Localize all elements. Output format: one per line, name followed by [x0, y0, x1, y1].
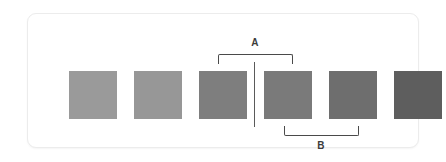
bracket-a	[218, 54, 293, 64]
bracket-b	[284, 126, 359, 136]
color-swatch-2	[134, 71, 182, 119]
diagram-card: A B	[27, 13, 419, 148]
gray-swatch-diagram: A B	[0, 0, 446, 162]
bracket-a-label: A	[235, 37, 275, 49]
color-swatch-4	[264, 71, 312, 119]
swatch-strip	[69, 71, 429, 119]
vertical-divider	[254, 62, 255, 127]
color-swatch-3	[199, 71, 247, 119]
color-swatch-6	[394, 71, 442, 119]
color-swatch-5	[329, 71, 377, 119]
color-swatch-1	[69, 71, 117, 119]
bracket-b-label: B	[301, 140, 341, 152]
